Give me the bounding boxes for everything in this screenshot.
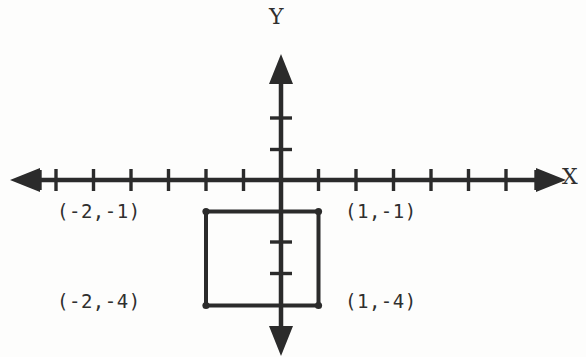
plotted-rectangle [206, 212, 319, 306]
coordinate-plane-figure: (-2,-1) (1,-1) (-2,-4) (1,-4) Y X [0, 0, 586, 357]
y-axis-group [269, 54, 293, 356]
vertex-point-top-right [315, 208, 322, 215]
vertex-label-bottom-right: (1,-4) [345, 292, 417, 311]
y-axis-arrow-up [269, 54, 293, 84]
y-axis-label: Y [269, 6, 284, 28]
vertex-point-bottom-right [315, 302, 322, 309]
vertex-label-top-left: (-2,-1) [57, 202, 141, 221]
x-axis-group [10, 168, 566, 192]
vertex-point-top-left [202, 208, 209, 215]
x-axis-label: X [562, 166, 578, 188]
vertex-label-top-right: (1,-1) [345, 202, 417, 221]
plotted-rectangle-group [202, 208, 322, 309]
x-axis-arrow-left [10, 168, 40, 192]
vertex-point-bottom-left [202, 302, 209, 309]
vertex-label-bottom-left: (-2,-4) [57, 292, 141, 311]
y-axis-arrow-down [269, 326, 293, 356]
